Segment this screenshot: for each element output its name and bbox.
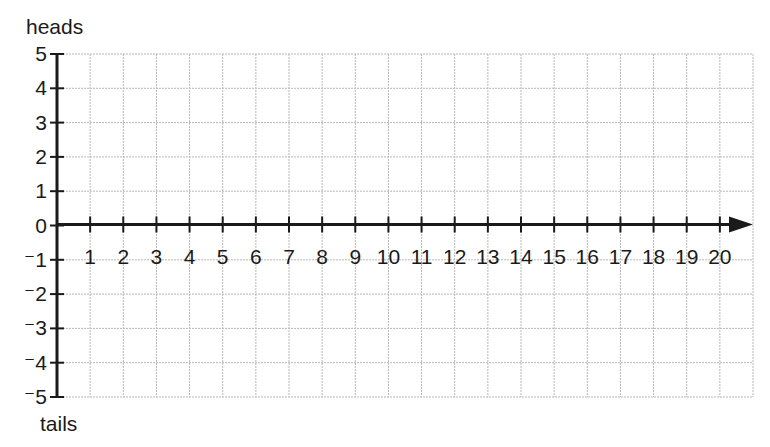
x-tick-label: 3: [151, 245, 163, 268]
y-tick-label: 2: [35, 145, 47, 168]
y-tick-label: ⁻1: [24, 248, 47, 271]
y-tick-label: 1: [35, 179, 47, 202]
y-tick-label: 4: [35, 76, 47, 99]
x-tick-label: 16: [576, 245, 599, 268]
x-axis: [57, 217, 753, 233]
x-tick-label: 5: [217, 245, 229, 268]
x-tick-label: 20: [708, 245, 731, 268]
x-tick-label: 17: [609, 245, 632, 268]
x-tick-label: 7: [283, 245, 295, 268]
x-tick-labels: 1234567891011121314151617181920: [84, 245, 731, 268]
y-tick-label: 5: [35, 42, 47, 65]
y-tick-label: ⁻5: [24, 385, 47, 408]
x-tick-label: 2: [117, 245, 129, 268]
x-tick-label: 8: [316, 245, 328, 268]
x-tick-label: 1: [84, 245, 96, 268]
x-tick-label: 6: [250, 245, 262, 268]
x-tick-label: 10: [377, 245, 400, 268]
coordinate-grid-chart: 543210⁻1⁻2⁻3⁻4⁻5 12345678910111213141516…: [0, 0, 770, 447]
y-tick-label: ⁻2: [24, 282, 47, 305]
x-tick-label: 15: [542, 245, 565, 268]
y-tick-labels: 543210⁻1⁻2⁻3⁻4⁻5: [24, 42, 47, 408]
x-tick-label: 19: [675, 245, 698, 268]
y-tick-label: ⁻4: [24, 351, 47, 374]
y-tick-label: 3: [35, 111, 47, 134]
x-tick-label: 18: [642, 245, 665, 268]
x-tick-label: 13: [476, 245, 499, 268]
y-tick-label: ⁻3: [24, 316, 47, 339]
x-tick-label: 9: [349, 245, 361, 268]
y-tick-label: 0: [35, 214, 47, 237]
x-tick-label: 12: [443, 245, 466, 268]
x-axis-arrow-icon: [729, 217, 753, 233]
x-tick-label: 14: [509, 245, 533, 268]
y-axis-label-tails: tails: [40, 412, 77, 435]
x-tick-label: 11: [411, 245, 433, 268]
x-tick-label: 4: [184, 245, 196, 268]
y-axis-label-heads: heads: [26, 15, 83, 38]
